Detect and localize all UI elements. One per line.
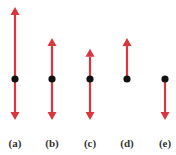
point-mass-dot	[123, 75, 130, 82]
panel-label: (e)	[159, 137, 172, 150]
point-mass-dot	[86, 75, 93, 82]
panel-label: (c)	[84, 137, 97, 150]
up-force-arrow	[86, 49, 95, 79]
point-mass-dot	[48, 75, 55, 82]
force-diagram: (a)(b)(c)(d)(e)	[0, 0, 176, 155]
up-force-arrow	[123, 38, 132, 79]
panel-label: (b)	[45, 137, 59, 150]
up-force-arrow	[11, 7, 20, 79]
point-mass-dot	[161, 75, 168, 82]
down-force-arrow	[48, 79, 57, 120]
up-force-arrow	[48, 38, 57, 79]
panel-label: (a)	[9, 137, 22, 150]
panel-label: (d)	[120, 137, 134, 150]
down-force-arrow	[161, 79, 170, 120]
down-force-arrow	[86, 79, 95, 120]
point-mass-dot	[11, 75, 18, 82]
down-force-arrow	[11, 79, 20, 120]
